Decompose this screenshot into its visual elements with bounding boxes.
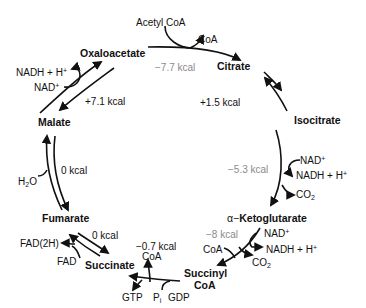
energy-citrate-synthase: −7.7 kcal <box>155 62 195 73</box>
arrow-oxaloacetate-citrate <box>148 47 240 60</box>
metabolite-succinyl-coa-line2: CoA <box>194 280 216 291</box>
energy-ketoglutarate-dh: −8 kcal <box>206 229 238 240</box>
cofactor-pi: Pi <box>153 292 161 303</box>
energy-succinate-dh: 0 kcal <box>92 230 118 241</box>
cofactor-malate-nad: NAD+ <box>34 82 59 93</box>
cofactor-gtp: GTP <box>122 292 143 303</box>
arrow-succinylcoa-succinate <box>130 276 180 281</box>
cofactor-isocitrate-nadh: NADH + H+ <box>296 170 347 181</box>
cofactor-h2o: H2O <box>18 176 37 187</box>
cofactor-isocitrate-co2: CO2 <box>296 189 315 200</box>
cycle-arrows <box>0 0 366 308</box>
cofactor-fad2h: FAD(2H) <box>20 238 59 249</box>
cofactor-fad: FAD <box>57 256 76 267</box>
metabolite-isocitrate: Isocitrate <box>294 115 341 126</box>
metabolite-fumarate: Fumarate <box>42 213 89 224</box>
metabolite-ketoglutarate: α−Ketoglutarate <box>227 213 307 224</box>
metabolite-succinyl-coa-line1: Succinyl <box>184 268 227 279</box>
cofactor-malate-nadh: NADH + H+ <box>16 67 67 78</box>
metabolite-oxaloacetate: Oxaloacetate <box>80 48 145 59</box>
metabolite-citrate: Citrate <box>217 61 250 72</box>
cofactor-ketoglutarate-nadh: NADH + H+ <box>266 244 317 255</box>
metabolite-malate: Malate <box>38 117 71 128</box>
energy-fumarase: 0 kcal <box>61 165 87 176</box>
energy-isocitrate-dh: −5.3 kcal <box>228 164 268 175</box>
energy-malate-dh: +7.1 kcal <box>85 96 125 107</box>
cofactor-ketoglutarate-coa: CoA <box>203 244 222 255</box>
metabolite-succinate: Succinate <box>85 260 135 271</box>
arrow-isocitrate-ketoglutarate <box>271 130 281 205</box>
cofactor-coa-released: CoA <box>198 34 217 45</box>
cofactor-succinyl-coa-released: CoA <box>142 251 161 262</box>
cofactor-gdp: GDP <box>168 292 190 303</box>
cofactor-ketoglutarate-co2: CO2 <box>252 257 271 268</box>
cofactor-ketoglutarate-nad: NAD+ <box>264 228 289 239</box>
cofactor-acetyl-coa: Acetyl CoA <box>136 17 185 28</box>
cofactor-isocitrate-nad: NAD+ <box>300 155 325 166</box>
energy-aconitase: +1.5 kcal <box>200 97 240 108</box>
